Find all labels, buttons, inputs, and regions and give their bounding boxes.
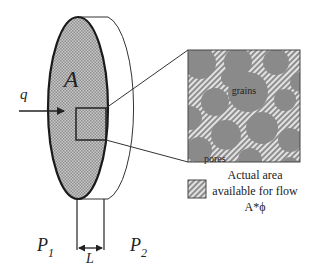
- label-pores: pores: [204, 153, 226, 164]
- p1-subscript: 1: [48, 246, 54, 260]
- length-dimension: [77, 198, 104, 250]
- label-area: A: [62, 66, 79, 92]
- label-flow-rate: q: [20, 86, 28, 102]
- p1-symbol: P: [36, 235, 48, 255]
- pore-structure-zoom: [178, 47, 310, 173]
- label-p2: P2: [129, 235, 147, 260]
- label-grains: grains: [232, 85, 257, 96]
- label-length: L: [85, 251, 94, 266]
- label-p1: P1: [36, 235, 54, 260]
- legend-line-3: A*ϕ: [245, 200, 266, 214]
- p2-subscript: 2: [141, 246, 147, 260]
- p2-symbol: P: [129, 235, 141, 255]
- legend-swatch-pore-area: [188, 180, 206, 198]
- legend-line-2: available for flow: [212, 184, 298, 198]
- legend-line-1: Actual area: [228, 168, 284, 182]
- porous-media-diagram: grains pores A q L P1 P2 Actual area ava…: [0, 0, 314, 273]
